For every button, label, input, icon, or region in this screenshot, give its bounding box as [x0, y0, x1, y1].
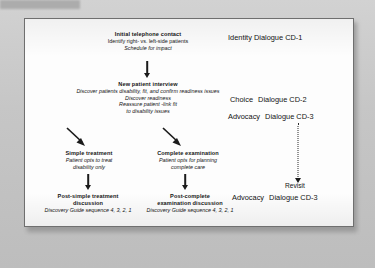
- node-title: Complete examination: [134, 150, 242, 157]
- flowchart-slide: Initial telephone contact Identify right…: [24, 18, 354, 227]
- revisit-caption: Revisit: [243, 182, 347, 189]
- node-simple-treatment: Simple treatment Patient opts to treat d…: [39, 150, 139, 170]
- side-label-prefix: Choice: [230, 95, 253, 104]
- revisit-text: Dialogue CD-3: [269, 193, 317, 202]
- node-title: New patient interview: [35, 81, 261, 88]
- side-label-text: Dialogue CD-1: [254, 33, 302, 42]
- node-line: Identify right- vs. left-side patients: [71, 38, 225, 45]
- node-line: Patient opts for planning: [134, 157, 242, 164]
- node-initial-telephone-contact: Initial telephone contact Identify right…: [71, 31, 225, 51]
- arrow-branch-complete-examination: [161, 127, 187, 149]
- node-line: Patient opts to treat: [39, 157, 139, 164]
- node-line: Reassure patient -link fit: [35, 101, 261, 108]
- node-line: disability only: [39, 164, 139, 171]
- node-title: Simple treatment: [39, 150, 139, 157]
- node-line: Discover readiness: [35, 95, 261, 102]
- node-line: Discovery Guide sequence 4, 3, 2, 1: [129, 207, 251, 214]
- arrow-contact-to-interview: [142, 61, 152, 74]
- node-new-patient-interview: New patient interview Discover patients …: [35, 81, 261, 114]
- side-label-identity-cd1: Identity Dialogue CD-1: [228, 33, 302, 42]
- arrow-branch-simple-treatment: [65, 127, 91, 149]
- revisit-prefix: Advocacy: [232, 193, 264, 202]
- side-label-prefix: Advocacy: [228, 112, 260, 121]
- side-label-prefix: Identity: [228, 33, 252, 42]
- scan-smudge: [0, 0, 80, 9]
- node-complete-examination: Complete examination Patient opts for pl…: [134, 150, 242, 170]
- revisit-label: Advocacy Dialogue CD-3: [232, 193, 318, 202]
- node-line: Discover patients disability, fit, and c…: [35, 88, 261, 95]
- node-line: Schedule for impact: [71, 45, 225, 52]
- arrow-complete-to-post-complete: [180, 174, 190, 186]
- side-label-text: Dialogue CD-3: [265, 112, 313, 121]
- side-label-choice-cd2: Choice Dialogue CD-2: [230, 95, 307, 104]
- node-revisit-advocacy-cd3: Revisit: [243, 182, 347, 189]
- side-label-advocacy-cd3: Advocacy Dialogue CD-3: [228, 112, 314, 121]
- node-title: Initial telephone contact: [71, 31, 225, 38]
- arrow-advocacy-revisit-dotted: [293, 123, 303, 179]
- node-line: complete care: [134, 164, 242, 171]
- side-label-text: Dialogue CD-2: [258, 95, 306, 104]
- arrow-simple-to-post-simple: [83, 174, 93, 186]
